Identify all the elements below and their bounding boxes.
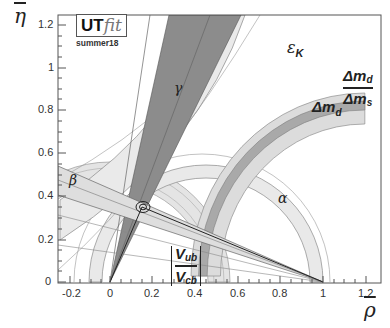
y-axis-ticks — [58, 25, 66, 282]
x-tick-label: 0.2 — [144, 287, 159, 299]
x-axis-title: ρ — [364, 298, 376, 322]
vub-numerator: Vub — [175, 246, 197, 263]
vub-vcb-label: Vub Vcb — [171, 246, 201, 286]
x-tick-label: 0.6 — [230, 287, 245, 299]
logo-edition: summer18 — [76, 38, 127, 48]
beta-label: β — [69, 172, 77, 188]
x-tick-label: -0.2 — [62, 287, 81, 299]
dmd-over-dms-label: Δmd Δms — [343, 68, 373, 108]
y-axis-title: η — [14, 4, 26, 28]
epsilon-symbol: ε — [287, 38, 296, 57]
dmd-label: Δmd — [312, 98, 342, 118]
dmd-over-dms-numerator: Δmd — [343, 68, 373, 85]
y-tick-label: 0 — [45, 275, 51, 287]
fraction-bar — [175, 265, 197, 267]
y-tick-label: 0.4 — [38, 189, 53, 201]
dmd-over-dms-denominator: Δms — [343, 91, 373, 108]
utfit-logo-box: UTfit — [76, 14, 127, 37]
alpha-label: α — [278, 190, 287, 206]
vcb-denominator: Vcb — [175, 269, 197, 286]
y-tick-label: 1.2 — [38, 18, 53, 30]
gamma-label: γ — [174, 80, 182, 96]
x-tick-label: 0.4 — [187, 287, 202, 299]
x-tick-label: 1 — [320, 287, 326, 299]
epsilon-subscript: K — [296, 47, 304, 59]
logo-fit-text: fit — [104, 15, 122, 35]
y-tick-label: 0.6 — [38, 146, 53, 158]
x-tick-label: 0 — [107, 287, 113, 299]
y-tick-label: 0.2 — [38, 233, 53, 245]
epsilon-k-label: εK — [287, 38, 304, 59]
y-tick-label: 1 — [48, 61, 54, 73]
utfit-logo: UTfit summer18 — [76, 14, 127, 48]
constraint-regions — [0, 15, 365, 282]
dmd-band — [191, 93, 365, 276]
logo-ut-text: UT — [81, 16, 104, 35]
x-tick-label: 0.8 — [272, 287, 287, 299]
fraction-bar — [343, 87, 373, 89]
y-tick-label: 0.8 — [38, 103, 53, 115]
